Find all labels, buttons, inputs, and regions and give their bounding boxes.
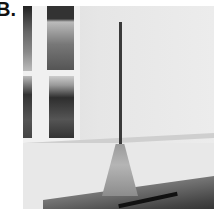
window bbox=[23, 6, 80, 144]
panel-label: B. bbox=[0, 0, 16, 21]
broom-handle bbox=[119, 22, 122, 146]
window-pane bbox=[49, 76, 74, 138]
window-pane bbox=[47, 6, 74, 70]
window-pane bbox=[23, 6, 32, 71]
photo-broom-in-corner bbox=[23, 6, 214, 209]
window-pane bbox=[23, 76, 32, 138]
